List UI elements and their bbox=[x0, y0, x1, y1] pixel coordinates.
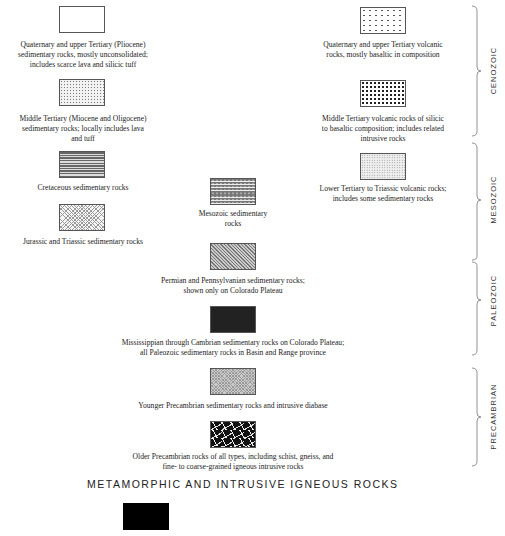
era-label-precambrian: PRECAMBRIAN bbox=[489, 377, 498, 457]
caption-cretaceous: Cretaceous sedimentary rocks bbox=[0, 183, 166, 193]
era-label-mesozoic: MESOZOIC bbox=[489, 170, 498, 230]
caption-permian-pennsylvanian: Permian and Pennsylvanian sedimentary ro… bbox=[120, 276, 346, 296]
swatch-younger-precambrian bbox=[210, 368, 256, 395]
caption-older-precambrian: Older Precambrian rocks of all types, in… bbox=[100, 452, 366, 472]
caption-middle-tertiary-volcanic: Middle Tertiary volcanic rocks of silici… bbox=[301, 114, 465, 144]
swatch-middle-tertiary-volcanic bbox=[360, 80, 406, 107]
swatch-mesozoic-sedimentary bbox=[210, 178, 256, 205]
swatch-mississippian-cambrian bbox=[210, 306, 256, 333]
swatch-middle-tertiary-sedimentary bbox=[59, 79, 105, 106]
swatch-lower-tertiary-triassic-volcanic bbox=[360, 153, 406, 180]
swatch-metamorphic-intrusive bbox=[123, 503, 169, 530]
swatch-cretaceous bbox=[59, 151, 105, 178]
swatch-permian-pennsylvanian bbox=[210, 243, 256, 270]
caption-lower-tertiary-triassic-volcanic: Lower Tertiary to Triassic volcanic rock… bbox=[304, 184, 462, 204]
caption-jurassic-triassic: Jurassic and Triassic sedimentary rocks bbox=[0, 237, 166, 247]
section-heading-metamorphic: METAMORPHIC AND INTRUSIVE IGNEOUS ROCKS bbox=[87, 478, 399, 490]
caption-mississippian-cambrian: Mississippian through Cambrian sedimenta… bbox=[90, 338, 376, 358]
swatch-jurassic-triassic bbox=[59, 204, 105, 231]
swatch-quaternary-sedimentary bbox=[59, 6, 105, 33]
caption-mesozoic-sedimentary: Mesozoic sedimentary rocks bbox=[185, 209, 281, 229]
caption-quaternary-sedimentary: Quaternary and upper Tertiary (Pliocene)… bbox=[0, 40, 166, 70]
caption-quaternary-volcanic: Quaternary and upper Tertiary volcanic r… bbox=[304, 40, 462, 60]
swatch-quaternary-volcanic bbox=[360, 7, 406, 34]
era-label-paleozoic: PALEOZOIC bbox=[489, 271, 498, 331]
caption-middle-tertiary-sedimentary: Middle Tertiary (Miocene and Oligocene) … bbox=[0, 114, 166, 144]
swatch-older-precambrian bbox=[210, 421, 256, 448]
era-label-cenozoic: CENOZOIC bbox=[489, 41, 498, 101]
caption-younger-precambrian: Younger Precambrian sedimentary rocks an… bbox=[100, 401, 366, 411]
era-brackets bbox=[470, 0, 490, 480]
